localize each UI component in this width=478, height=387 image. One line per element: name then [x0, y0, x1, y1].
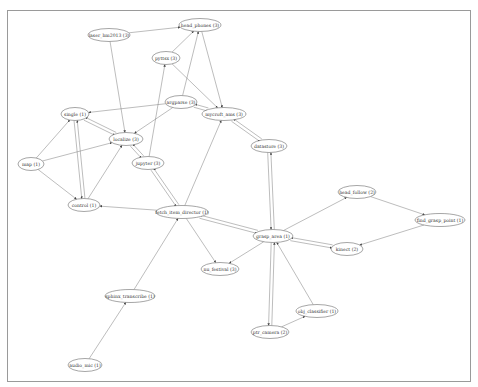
node-sphinx_transcribe: sphinx_transcribe (1) — [105, 290, 155, 303]
edge-argparse-to-single — [89, 104, 166, 113]
edge-grasp_area-to-fetch_item_director — [200, 215, 258, 230]
edge-sphinx_transcribe-to-fetch_item_director — [134, 218, 178, 289]
edge-find_grasp_point-to-kinect — [360, 225, 424, 245]
edge-jupyter-to-fetch_item_director — [151, 170, 176, 206]
edge-map-to-single — [36, 120, 69, 158]
node-single: single (1) — [61, 108, 89, 121]
node-label: datastore (3) — [254, 144, 284, 149]
edge-single-to-control — [74, 121, 82, 199]
edge-audio_mic-to-sphinx_transcribe — [89, 302, 126, 358]
node-audio_mic: audio_mic (1) — [68, 359, 102, 372]
edge-mycroft_ams-to-argparse — [195, 104, 209, 108]
edge-single-to-localize — [84, 120, 115, 135]
edge-pyttsx-to-head_phones — [172, 31, 194, 52]
dependency-graph: laser_hm2013 (3)head_phones (3)pyttsx (3… — [0, 0, 478, 387]
edge-laser_hm2013-to-head_phones — [129, 27, 180, 33]
edge-datastore-to-grasp_area — [268, 153, 271, 230]
node-ptr_camera: ptr_camera (2) — [251, 326, 289, 339]
edge-grasp_area-to-ptr_camera — [269, 242, 272, 325]
edge-grasp_area-to-head_follow — [284, 197, 347, 230]
edge-localize-to-jupyter — [130, 146, 141, 158]
edge-grasp_area-to-nu_festival — [229, 242, 264, 264]
node-nu_festival: nu_festival (3) — [201, 263, 239, 276]
node-label: kinect (2) — [336, 247, 359, 252]
node-kinect: kinect (2) — [331, 243, 363, 256]
edge-ptr_camera-to-obj_classifier — [282, 316, 305, 326]
node-laser_hm2013: laser_hm2013 (3) — [88, 29, 130, 42]
edge-datastore-to-mycroft_ams — [233, 119, 261, 139]
node-jupyter: jupyter (3) — [132, 157, 164, 170]
node-map: map (1) — [18, 158, 44, 171]
node-label: control (1) — [72, 203, 97, 208]
node-head_follow: head_follow (2) — [338, 186, 376, 199]
edge-argparse-to-head_phones — [183, 31, 199, 95]
edge-fetch_item_director-to-control — [100, 206, 157, 210]
nodes-layer: laser_hm2013 (3)head_phones (3)pyttsx (3… — [18, 19, 465, 372]
node-localize: localize (3) — [109, 133, 143, 146]
edge-fetch_item_director-to-mycroft_ams — [185, 120, 221, 205]
edge-fetch_item_director-to-grasp_area — [199, 218, 257, 233]
node-mycroft_ams: mycroft_ams (3) — [202, 108, 246, 121]
edge-fetch_item_director-to-jupyter — [154, 168, 179, 204]
edge-kinect-to-grasp_area — [291, 238, 333, 245]
node-obj_classifier: obj_classifier (1) — [296, 305, 338, 318]
edge-control-to-single — [77, 120, 85, 198]
node-pyttsx: pyttsx (3) — [152, 52, 180, 65]
edge-mycroft_ams-to-datastore — [232, 121, 260, 141]
node-control: control (1) — [68, 199, 100, 212]
node-argparse: argparse (3) — [165, 96, 197, 109]
edge-fetch_item_director-to-nu_festival — [186, 218, 216, 262]
edge-localize-to-single — [85, 117, 116, 132]
node-find_grasp_point: find_grasp_point (1) — [415, 214, 465, 227]
node-label: map (1) — [22, 162, 40, 167]
edge-grasp_area-to-datastore — [271, 152, 274, 229]
node-grasp_area: grasp_area (1) — [253, 230, 293, 243]
edge-grasp_area-to-kinect — [290, 241, 332, 248]
node-head_phones: head_phones (3) — [179, 19, 221, 32]
edge-laser_hm2013-to-localize — [110, 41, 125, 132]
edge-control-to-localize — [88, 145, 122, 198]
edge-ptr_camera-to-grasp_area — [272, 243, 275, 326]
node-fetch_item_director: fetch_item_director (1) — [155, 206, 209, 219]
edge-jupyter-to-pyttsx — [149, 64, 165, 156]
node-datastore: datastore (3) — [251, 140, 287, 153]
edge-map-to-control — [38, 169, 77, 199]
edge-obj_classifier-to-grasp_area — [277, 242, 314, 304]
edge-jupyter-to-localize — [133, 144, 144, 156]
node-label: localize (3) — [113, 137, 139, 142]
edge-head_phones-to-mycroft_ams — [202, 31, 223, 107]
edge-head_follow-to-find_grasp_point — [371, 197, 425, 215]
